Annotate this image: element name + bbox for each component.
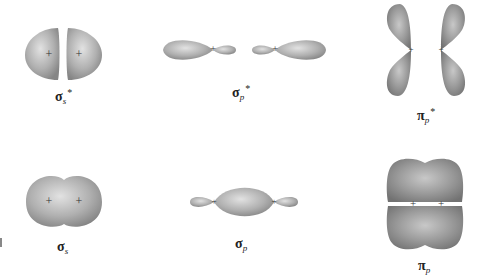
nucleus-plus-icon: + [438,44,443,54]
nucleus-plus-icon: + [438,197,444,209]
subscript: s [65,246,69,256]
greek-letter: σ [55,89,63,104]
nucleus-plus-icon: + [46,47,53,61]
nucleus-plus-icon: + [76,194,83,208]
nucleus-plus-icon: + [76,47,83,61]
nucleus-plus-icon: + [408,44,413,54]
greek-letter: σ [57,239,65,254]
label-pi-p-star: πp* [417,106,435,125]
superscript: * [67,87,72,98]
label-sigma-p: σp [235,234,248,253]
subscript: p [240,92,245,102]
orbital-diagram: + + + + + + + + [0,0,485,275]
label-sigma-s-star: σs* [55,87,72,106]
greek-letter: π [417,108,425,123]
greek-letter: σ [232,85,240,100]
nucleus-plus-icon: + [210,43,216,54]
nucleus-plus-icon: + [46,194,53,208]
superscript: * [430,106,435,117]
label-sigma-s: σs [57,237,69,256]
sigma-p-orbital: + + [190,188,298,217]
nucleus-plus-icon: + [271,196,276,206]
sigma-s-star-orbital: + + [25,28,102,80]
pi-p-orbital: + + [387,159,463,250]
nucleus-plus-icon: + [211,196,216,206]
nucleus-plus-icon: + [272,43,278,54]
subscript: p [426,265,431,275]
sigma-p-star-orbital: + + [163,40,326,60]
greek-letter: σ [235,236,243,251]
label-pi-p: πp [418,256,431,275]
nucleus-plus-icon: + [410,197,416,209]
sigma-s-orbital: + + [26,176,102,227]
subscript: p [425,115,430,125]
greek-letter: π [418,258,426,273]
subscript: s [63,96,67,106]
label-sigma-p-star: σp* [232,83,250,102]
edge-artifact [0,238,2,247]
subscript: p [243,243,248,253]
superscript: * [245,83,250,94]
pi-p-star-orbital: + + [387,4,465,96]
